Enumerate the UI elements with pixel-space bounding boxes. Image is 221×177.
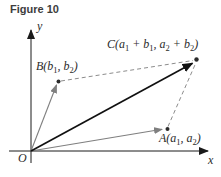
vector-ob <box>31 85 57 151</box>
origin-label: O <box>18 152 27 164</box>
label-text: + b <box>129 37 149 51</box>
vector-addition-diagram <box>0 0 221 177</box>
point-a-label: A(a1, a2) <box>159 132 201 144</box>
dashed-line-b-to-c <box>61 61 193 82</box>
label-text: ) <box>197 131 201 145</box>
label-text: B(b <box>36 59 53 73</box>
figure-10: Figure 10 y x O <box>0 0 221 177</box>
label-text: , a <box>154 37 166 51</box>
point-c-dot <box>194 57 198 61</box>
label-text: ) <box>194 37 198 51</box>
dashed-line-a-to-c <box>168 63 196 127</box>
label-text: ) <box>74 59 78 73</box>
label-text: , a <box>181 131 193 145</box>
y-axis-label: y <box>37 20 42 32</box>
point-c-label: C(a1 + b1, a2 + b2) <box>107 38 198 50</box>
label-text: + b <box>170 37 190 51</box>
label-text: A(a <box>159 131 176 145</box>
label-text: , b <box>58 59 70 73</box>
point-b-dot <box>57 80 61 84</box>
x-axis-label: x <box>208 154 213 166</box>
point-b-label: B(b1, b2) <box>36 60 78 72</box>
label-text: C(a <box>107 37 125 51</box>
